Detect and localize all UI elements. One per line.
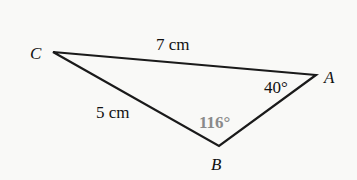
angle-label-a: 40° [264, 78, 288, 97]
vertex-label-a: A [323, 68, 335, 87]
diagram-canvas: C A B 7 cm 5 cm 40° 116° [0, 0, 357, 180]
vertex-label-c: C [30, 44, 42, 63]
vertex-label-b: B [211, 155, 222, 174]
triangle-diagram: C A B 7 cm 5 cm 40° 116° [0, 0, 357, 180]
side-length-cb: 5 cm [96, 103, 130, 122]
side-length-ca: 7 cm [156, 35, 190, 54]
triangle-cab [53, 52, 316, 146]
angle-label-b: 116° [199, 113, 230, 132]
